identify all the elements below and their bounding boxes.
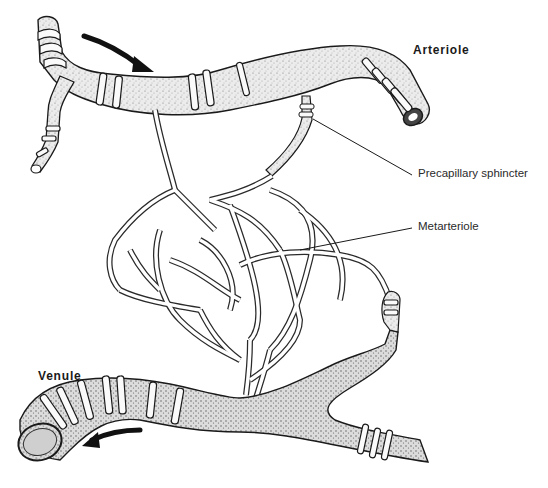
arteriole-inflow-arrow — [84, 36, 154, 72]
microcirculation-illustration — [0, 0, 548, 488]
metarteriole-leader-line — [300, 228, 412, 250]
venule-label: Venule — [38, 369, 81, 383]
arteriole-label: Arteriole — [413, 43, 470, 57]
capillary-network — [110, 110, 390, 398]
precapillary-sphincter — [266, 96, 314, 176]
precapillary-sphincter-label: Precapillary sphincter — [418, 167, 528, 179]
metarteriole-label: Metarteriole — [418, 220, 479, 232]
precapillary-sphincter-leader-line — [313, 119, 412, 175]
